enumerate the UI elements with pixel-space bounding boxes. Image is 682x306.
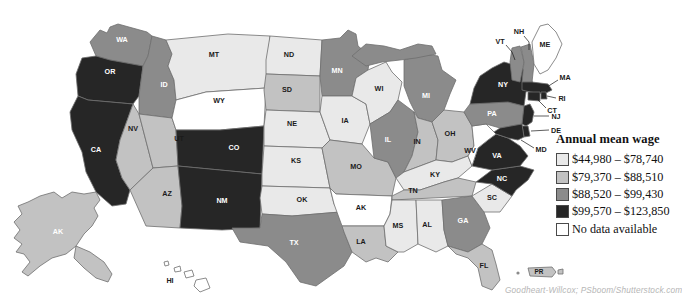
legend-swatch-1 (556, 153, 569, 166)
legend-swatch-5 (556, 223, 569, 236)
state-AK-tail[interactable] (74, 246, 112, 282)
label-AL: AL (422, 220, 432, 229)
legend: Annual mean wage $44,980 – $78,740 $79,3… (548, 132, 677, 238)
legend-label-1: $44,980 – $78,740 (572, 152, 663, 167)
label-MI: MI (422, 91, 430, 100)
label-VT: VT (495, 37, 505, 46)
legend-row[interactable]: No data available (548, 221, 677, 238)
state-HI-4[interactable] (194, 278, 210, 292)
label-FL: FL (480, 261, 489, 270)
legend-label-4: $99,570 – $123,850 (572, 204, 670, 219)
label-NH: NH (514, 27, 524, 36)
label-OK: OK (297, 195, 309, 204)
label-MN: MN (331, 66, 342, 75)
legend-row[interactable]: $44,980 – $78,740 (548, 151, 677, 168)
label-UT: UT (174, 134, 184, 143)
state-RI[interactable] (541, 92, 547, 99)
label-LA: LA (356, 237, 366, 246)
legend-title: Annual mean wage (556, 132, 677, 147)
label-GA: GA (458, 216, 469, 225)
label-CA: CA (91, 145, 101, 154)
state-HI-1[interactable] (164, 261, 169, 266)
leader-MA (547, 80, 558, 87)
label-IL: IL (385, 135, 392, 144)
legend-swatch-2 (556, 171, 569, 184)
label-NE: NE (287, 119, 297, 128)
state-HI-3[interactable] (184, 270, 194, 278)
leader-DE (531, 130, 549, 131)
state-FL[interactable] (448, 244, 500, 290)
label-OR: OR (105, 67, 117, 76)
legend-swatch-4 (556, 205, 569, 218)
label-TX: TX (289, 238, 298, 247)
label-MD: MD (535, 145, 546, 154)
label-IN: IN (413, 137, 420, 146)
label-KY: KY (430, 170, 440, 179)
legend-row[interactable]: $88,520 – $99,430 (548, 186, 677, 203)
label-IA: IA (341, 116, 348, 125)
label-MT: MT (209, 50, 220, 59)
legend-label-3: $88,520 – $99,430 (572, 187, 663, 202)
label-WI: WI (375, 84, 384, 93)
label-NC: NC (497, 174, 507, 183)
legend-label-2: $79,370 – $88,510 (572, 170, 663, 185)
label-HI: HI (166, 276, 173, 285)
label-VA: VA (492, 151, 501, 160)
label-ID: ID (160, 80, 167, 89)
label-TN: TN (408, 186, 418, 195)
label-WA: WA (116, 35, 128, 44)
label-PA: PA (487, 109, 496, 118)
state-NE[interactable] (264, 110, 330, 148)
label-MA: MA (559, 73, 570, 82)
label-MO: MO (350, 162, 362, 171)
state-PR-dot (516, 271, 519, 274)
legend-swatch-3 (556, 188, 569, 201)
label-ME: ME (540, 40, 551, 49)
label-AR: AK (356, 203, 367, 212)
label-RI: RI (558, 94, 565, 103)
legend-row[interactable]: $79,370 – $88,510 (548, 168, 677, 185)
leader-RI (547, 96, 556, 98)
state-PR-isl[interactable] (558, 269, 563, 274)
state-CT[interactable] (528, 92, 540, 101)
label-WV: WV (464, 146, 476, 155)
state-SD[interactable] (264, 74, 320, 112)
image-credit: Goodheart-Willcox; PSboom/Shutterstock.c… (505, 285, 682, 295)
state-KS[interactable] (262, 146, 330, 188)
label-NM: NM (216, 196, 227, 205)
label-AZ: AZ (162, 189, 172, 198)
state-NJ[interactable] (522, 104, 534, 126)
leader-MD (521, 140, 534, 148)
state-HI-2[interactable] (174, 266, 181, 272)
label-NV: NV (128, 124, 138, 133)
label-KS: KS (291, 156, 301, 165)
label-AK: AK (53, 227, 64, 236)
label-OH: OH (445, 129, 456, 138)
legend-row[interactable]: $99,570 – $123,850 (548, 203, 677, 220)
label-CO: CO (229, 143, 240, 152)
label-SD: SD (282, 85, 292, 94)
label-PR: PR (535, 268, 544, 275)
label-NJ: NJ (551, 112, 560, 121)
label-NY: NY (498, 80, 508, 89)
label-ND: ND (284, 50, 294, 59)
legend-label-5: No data available (572, 222, 657, 237)
label-MS: MS (393, 221, 404, 230)
label-SC: SC (487, 193, 497, 202)
leader-CT (538, 100, 546, 108)
state-ME[interactable] (532, 24, 562, 74)
label-WY: WY (213, 96, 225, 105)
